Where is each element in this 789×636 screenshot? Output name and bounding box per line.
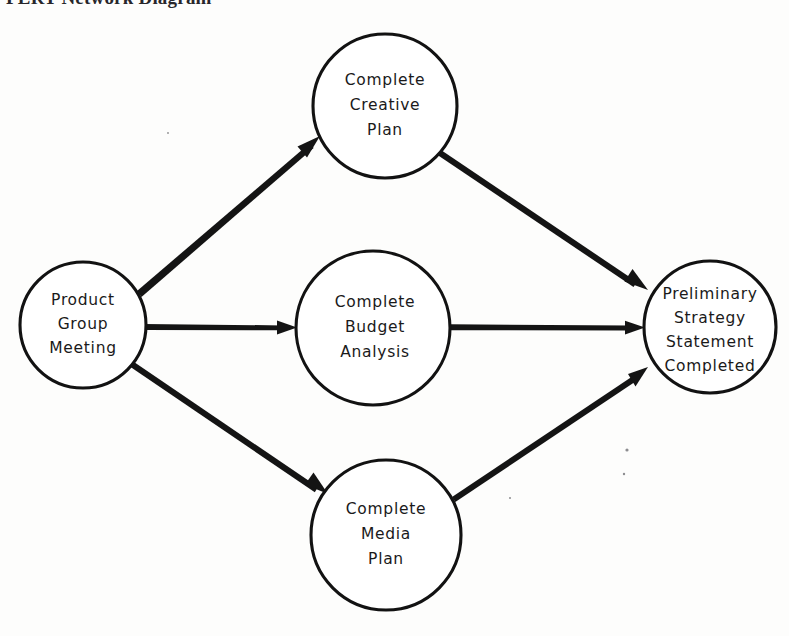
node-label-line: Budget [345,318,405,336]
node-complete-creative-plan[interactable]: Complete Creative Plan [313,34,457,178]
node-label-line: Statement [666,333,754,351]
node-label-line: Product [51,291,115,309]
pert-diagram-canvas: Product Group Meeting Complete Creative … [0,0,789,636]
edge-media-to-strategy [452,367,648,502]
node-label-line: Media [361,525,411,543]
node-label-line: Completed [665,357,756,375]
edge-meeting-to-budget [144,321,297,335]
node-product-group-meeting[interactable]: Product Group Meeting [20,262,146,388]
edge-creative-to-strategy [438,150,649,290]
node-complete-budget-analysis[interactable]: Complete Budget Analysis [296,251,450,405]
node-label-line: Complete [345,71,425,89]
node-label-line: Group [58,315,109,333]
edge-meeting-to-creative [137,136,320,297]
node-label-line: Analysis [340,343,409,361]
edge-meeting-to-media [131,362,329,494]
node-label-line: Plan [368,550,404,568]
node-label-line: Complete [335,293,415,311]
node-label-line: Preliminary [662,285,757,303]
pert-network-figure: PERT Network Diagram [0,0,789,636]
node-label-line: Creative [350,96,421,114]
diagram-nodes: Product Group Meeting Complete Creative … [20,34,776,610]
node-label-line: Strategy [674,309,746,327]
node-label-line: Complete [346,500,426,518]
node-preliminary-strategy-statement-completed[interactable]: Preliminary Strategy Statement Completed [644,261,776,393]
node-complete-media-plan[interactable]: Complete Media Plan [311,460,461,610]
node-label-line: Plan [367,121,403,139]
edge-budget-to-strategy [450,321,645,335]
node-label-line: Meeting [49,339,116,357]
